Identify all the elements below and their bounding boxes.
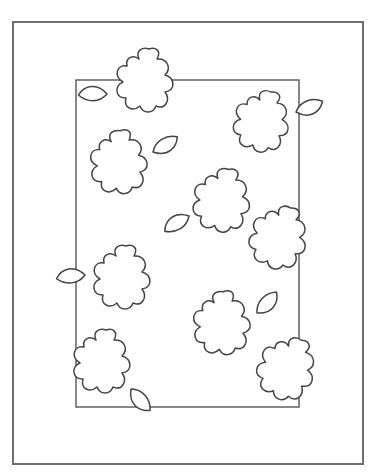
leaf-icon [78, 84, 108, 103]
flower-8 [250, 329, 324, 408]
leaf-icon [56, 267, 85, 284]
flower-2 [230, 86, 325, 156]
flower-6 [56, 245, 150, 309]
flower-icon [191, 289, 252, 357]
flower-icon [88, 128, 149, 196]
flower-icon [117, 48, 173, 112]
flower-3 [88, 128, 181, 196]
flower-icon [244, 199, 315, 275]
flower-5 [244, 199, 315, 275]
leaf-icon [127, 384, 154, 416]
flower-icon [191, 166, 252, 234]
flower-icon [94, 245, 150, 309]
flower-9 [74, 329, 153, 415]
flower-group [56, 48, 324, 415]
flower-icon [250, 329, 324, 408]
flower-icon [230, 86, 294, 156]
flower-icon [74, 329, 130, 393]
leaf-icon [161, 211, 192, 234]
leaf-icon [150, 134, 181, 157]
outer-border-frame [13, 22, 363, 464]
leaf-icon [252, 289, 283, 317]
flower-4 [161, 166, 253, 234]
coloring-page-canvas [0, 0, 382, 476]
